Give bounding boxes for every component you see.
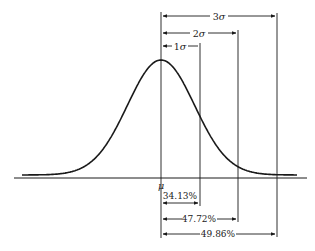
bracket-49-percent: 49.86% (163, 229, 275, 239)
bracket-34-percent: 34.13% (163, 191, 198, 203)
label-47-percent: 47.72% (182, 214, 217, 224)
bracket-47-percent: 47.72% (163, 214, 236, 224)
label-3sigma: 3σ (213, 11, 226, 22)
mean-label: μ (158, 180, 164, 191)
normal-distribution-diagram: 1σ 2σ 3σ μ 34.13% 47.72% 49.86% (0, 0, 315, 251)
label-49-percent: 49.86% (201, 229, 236, 239)
bracket-1sigma: 1σ (163, 41, 198, 52)
label-1sigma: 1σ (174, 41, 187, 52)
label-34-percent: 34.13% (163, 191, 198, 201)
bracket-2sigma: 2σ (163, 28, 236, 39)
bell-curve (22, 60, 297, 175)
label-2sigma: 2σ (193, 28, 206, 39)
bracket-3sigma: 3σ (163, 11, 275, 22)
